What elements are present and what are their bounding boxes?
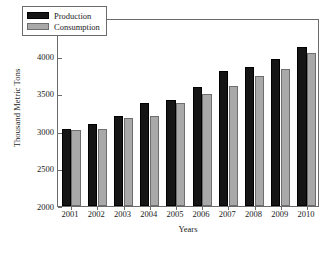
x-axis-tick-label: 2009	[271, 209, 288, 219]
y-axis-tick-label: 3000	[37, 127, 54, 137]
bar-group	[163, 20, 189, 206]
bar-consumption-2005	[176, 103, 185, 206]
bar-production-2008	[245, 67, 254, 206]
bar-production-2002	[88, 124, 97, 206]
x-axis-title: Years	[57, 224, 319, 234]
bar-group	[294, 20, 320, 206]
bar-consumption-2010	[307, 53, 316, 206]
y-axis-tick-mark	[58, 95, 62, 96]
x-axis-tick-label: 2010	[297, 209, 314, 219]
bar-production-2001	[62, 129, 71, 206]
x-axis-tick-label: 2004	[140, 209, 157, 219]
bar-consumption-2008	[255, 76, 264, 206]
bar-series-container	[58, 20, 318, 206]
legend-item-consumption: Consumption	[27, 21, 100, 32]
y-axis-tick-mark	[58, 170, 62, 171]
x-axis-tick-label: 2005	[166, 209, 183, 219]
bar-group	[268, 20, 294, 206]
y-axis-tick-mark	[58, 207, 62, 208]
y-axis-tick-label: 4000	[37, 52, 54, 62]
bar-consumption-2007	[229, 86, 238, 206]
bar-group	[58, 20, 84, 206]
bar-group	[137, 20, 163, 206]
bar-group	[84, 20, 110, 206]
legend-item-production: Production	[27, 10, 100, 21]
bar-production-2007	[219, 71, 228, 206]
x-axis-tick-label: 2008	[245, 209, 262, 219]
bar-consumption-2003	[124, 118, 133, 206]
bar-group	[241, 20, 267, 206]
bar-production-2010	[297, 47, 306, 206]
bar-group	[110, 20, 136, 206]
y-axis-tick-label: 3500	[37, 89, 54, 99]
bar-consumption-2001	[71, 130, 80, 206]
legend-swatch-production-icon	[27, 12, 49, 19]
x-axis-tick-label: 2001	[62, 209, 79, 219]
bar-group	[215, 20, 241, 206]
bar-consumption-2009	[281, 69, 290, 206]
x-axis-tick-label: 2003	[114, 209, 131, 219]
bar-chart-figure: Thousand Metric Tons 2000250030003500400…	[0, 0, 334, 257]
legend-label-production: Production	[54, 11, 91, 21]
bar-production-2006	[193, 87, 202, 206]
chart-legend: Production Consumption	[22, 6, 107, 36]
plot-area	[57, 19, 319, 207]
bar-group	[189, 20, 215, 206]
x-axis-tick-label: 2007	[219, 209, 236, 219]
bar-consumption-2002	[98, 129, 107, 206]
x-axis-tick-labels: 2001200220032004200520062007200820092010	[57, 209, 319, 223]
bar-production-2009	[271, 59, 280, 206]
legend-label-consumption: Consumption	[54, 22, 100, 32]
x-axis-tick-label: 2006	[193, 209, 210, 219]
bar-production-2004	[140, 103, 149, 206]
bar-consumption-2006	[202, 94, 211, 206]
y-axis-tick-labels: 200025003000350040004500	[20, 0, 54, 257]
y-axis-tick-label: 2500	[37, 164, 54, 174]
bar-production-2003	[114, 116, 123, 206]
x-axis-tick-label: 2002	[88, 209, 105, 219]
plot-inner	[58, 20, 318, 206]
y-axis-tick-mark	[58, 58, 62, 59]
y-axis-tick-label: 2000	[37, 202, 54, 212]
bar-consumption-2004	[150, 116, 159, 206]
bar-production-2005	[166, 100, 175, 206]
y-axis-tick-mark	[58, 133, 62, 134]
legend-swatch-consumption-icon	[27, 23, 49, 30]
